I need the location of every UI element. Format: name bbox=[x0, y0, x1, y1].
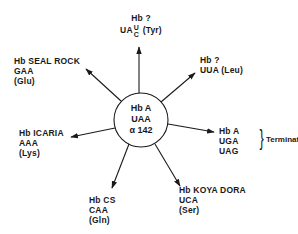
branch-top-name: Hb ? bbox=[112, 13, 170, 23]
branch-top-codon-alternatives: UC bbox=[134, 24, 139, 38]
branch-left-name: Hb ICARIA bbox=[19, 128, 64, 138]
branch-bottom-amino-acid: (Gln) bbox=[89, 215, 116, 225]
codon-alt-c: C bbox=[134, 31, 139, 38]
arrow-right bbox=[168, 124, 214, 132]
branch-right-label: Hb A UGA UAG bbox=[219, 126, 239, 156]
arrow-left bbox=[71, 128, 115, 137]
branch-top-codon-prefix: UA bbox=[120, 25, 133, 35]
branch-upper-right-codon: UUA bbox=[200, 65, 219, 75]
center-position: α 142 bbox=[115, 125, 167, 136]
branch-top-label: Hb ? UAUC (Tyr) bbox=[112, 13, 170, 38]
arrow-upper-right bbox=[161, 73, 195, 102]
branch-right-codon-2: UAG bbox=[219, 146, 239, 156]
branch-upper-left-amino-acid: (Glu) bbox=[14, 76, 80, 86]
branch-lower-right-name: Hb KOYA DORA bbox=[179, 185, 246, 195]
branch-lower-right-amino-acid: (Ser) bbox=[179, 205, 246, 215]
center-node-label: Hb A UAA α 142 bbox=[115, 103, 167, 136]
branch-lower-right-codon: UCA bbox=[179, 195, 246, 205]
branch-right-codon-1: UGA bbox=[219, 136, 239, 146]
codon-alt-u: U bbox=[134, 24, 139, 31]
branch-bottom-name: Hb CS bbox=[89, 195, 116, 205]
branch-right-name: Hb A bbox=[219, 126, 239, 136]
branch-upper-right-label: Hb ? UUA (Leu) bbox=[200, 55, 243, 75]
branch-top-codon-line: UAUC (Tyr) bbox=[112, 24, 170, 38]
branch-top-amino-acid: (Tyr) bbox=[143, 25, 162, 35]
branch-upper-left-codon: GAA bbox=[14, 66, 80, 76]
branch-lower-right-label: Hb KOYA DORA UCA (Ser) bbox=[179, 185, 246, 215]
center-hb-name: Hb A bbox=[115, 103, 167, 114]
branch-left-label: Hb ICARIA AAA (Lys) bbox=[19, 128, 64, 158]
branch-left-codon: AAA bbox=[19, 138, 64, 148]
branch-bottom-codon: CAA bbox=[89, 205, 116, 215]
arrow-lower-right bbox=[155, 144, 180, 186]
terminate-label: Terminate bbox=[266, 135, 298, 144]
branch-upper-right-name: Hb ? bbox=[200, 55, 243, 65]
branch-upper-right-amino-acid: (Leu) bbox=[221, 65, 243, 75]
center-codon: UAA bbox=[115, 114, 167, 125]
branch-bottom-label: Hb CS CAA (Gln) bbox=[89, 195, 116, 225]
branch-upper-left-label: Hb SEAL ROCK GAA (Glu) bbox=[14, 56, 80, 86]
brace-icon: } bbox=[259, 127, 263, 149]
branch-upper-left-name: Hb SEAL ROCK bbox=[14, 56, 80, 66]
branch-left-amino-acid: (Lys) bbox=[19, 148, 64, 158]
arrow-bottom bbox=[112, 144, 129, 188]
arrow-upper-left bbox=[86, 69, 121, 101]
